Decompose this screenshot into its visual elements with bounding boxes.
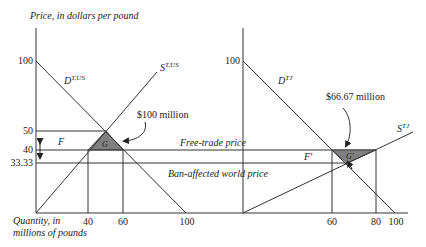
right-annotation-arrow-icon	[343, 108, 350, 146]
right-demand-curve	[243, 61, 395, 213]
left-demand-label: DT,US	[63, 74, 85, 86]
right-x-tick-80: 80	[371, 216, 381, 227]
left-x-tick-40: 40	[83, 216, 93, 227]
area-f-prime-label: F'	[303, 151, 313, 162]
right-x-tick-100: 100	[389, 216, 404, 227]
free-trade-price-label: Free-trade price	[179, 137, 247, 148]
left-y-tick-50: 50	[23, 125, 33, 136]
left-y-tick-100: 100	[18, 55, 33, 66]
area-g-prime-label: G'	[346, 152, 354, 161]
right-demand-label: DTJ	[277, 74, 293, 86]
area-g-label: G	[102, 140, 108, 149]
left-annotation-arrow-icon	[124, 122, 146, 141]
left-supply-label: ST,US	[160, 61, 179, 73]
right-annotation: $66.67 million	[326, 91, 385, 102]
right-y-tick-100: 100	[225, 55, 240, 66]
trade-ban-diagram: Price, in dollars per pound 100 50 40 33…	[0, 0, 426, 247]
right-x-tick-60: 60	[327, 216, 337, 227]
x-axis-title-line1: Quantity, in	[13, 215, 60, 226]
left-x-tick-100: 100	[180, 216, 195, 227]
ban-affected-price-label: Ban-affected world price	[168, 168, 269, 179]
right-supply-label: STJ	[397, 122, 410, 134]
area-f-label: F	[57, 136, 65, 147]
left-y-tick-40: 40	[23, 144, 33, 155]
left-panel: 100 50 40 33.33 40 60 100 DT,US ST,US F …	[11, 28, 244, 238]
x-axis-title-line2: millions of pounds	[13, 227, 87, 238]
y-axis-title: Price, in dollars per pound	[29, 10, 140, 21]
left-x-tick-60: 60	[118, 216, 128, 227]
left-supply-curve	[36, 72, 157, 213]
left-y-tick-33: 33.33	[11, 157, 34, 168]
right-supply-curve	[243, 132, 413, 213]
left-annotation: $100 million	[137, 109, 188, 120]
right-panel: 100 60 80 100 DTJ STJ F' G' $66.67 milli…	[225, 28, 413, 227]
